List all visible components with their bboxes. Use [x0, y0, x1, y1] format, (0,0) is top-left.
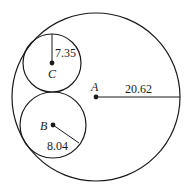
- radius-label-c: 7.35: [55, 46, 76, 60]
- center-point-c: [50, 61, 55, 66]
- center-point-b: [51, 123, 56, 128]
- radius-label-a: 20.62: [125, 82, 152, 96]
- label-a: A: [90, 80, 99, 94]
- circles-diagram: A 20.62 C 7.35 B 8.04: [0, 0, 187, 190]
- label-c: C: [48, 67, 57, 81]
- radius-label-b: 8.04: [47, 139, 68, 153]
- label-b: B: [40, 119, 48, 133]
- center-point-a: [94, 95, 99, 100]
